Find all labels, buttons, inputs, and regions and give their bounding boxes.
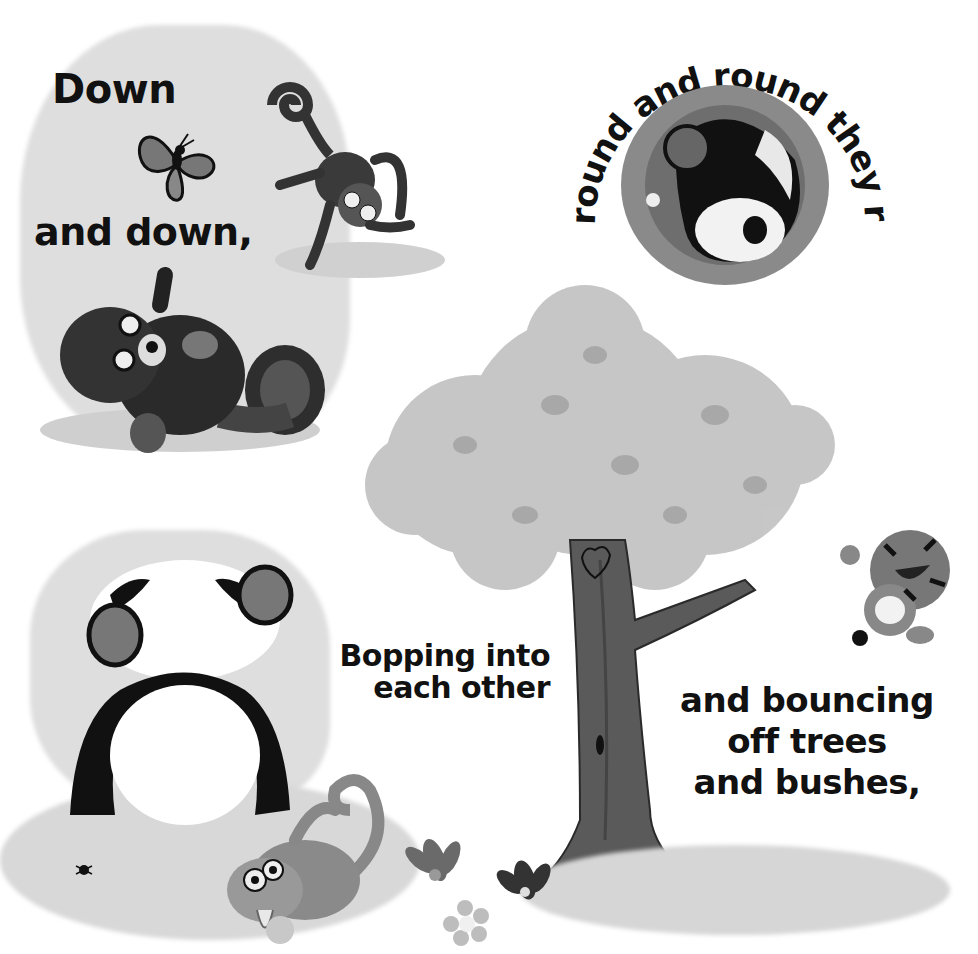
caption-bouncing-line1: and bouncing bbox=[672, 680, 942, 721]
tiger-cub-illustration bbox=[835, 510, 975, 650]
caption-bouncing: and bouncing off trees and bushes, bbox=[672, 680, 942, 802]
caption-bopping-line2: each other bbox=[315, 672, 550, 704]
storybook-page: Down and down, bbox=[0, 0, 978, 954]
ground-shadow-right bbox=[520, 845, 950, 935]
butterfly-icon bbox=[132, 120, 222, 210]
caption-down: Down bbox=[52, 68, 176, 111]
caption-bouncing-line2: off trees bbox=[672, 721, 942, 762]
spider-icon bbox=[74, 860, 94, 880]
flowers-illustration bbox=[395, 830, 555, 950]
caption-bopping: Bopping into each other bbox=[315, 640, 550, 705]
panda-rolling-circle-illustration bbox=[615, 80, 835, 290]
red-panda-illustration bbox=[30, 265, 330, 465]
monkey-upside-down-illustration bbox=[250, 55, 450, 295]
caption-bopping-line1: Bopping into bbox=[315, 640, 550, 672]
monkey-with-banana-illustration bbox=[195, 760, 405, 950]
caption-and-down: and down, bbox=[34, 212, 253, 253]
caption-bouncing-line3: and bushes, bbox=[672, 762, 942, 803]
